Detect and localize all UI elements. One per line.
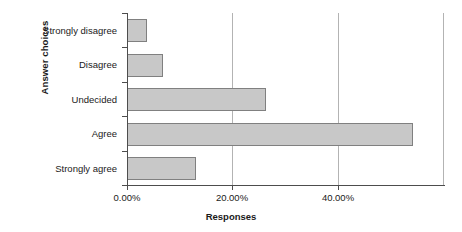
y-axis-category-labels: Strongly disagree Disagree Undecided Agr… — [14, 13, 122, 185]
plot-area — [127, 13, 444, 185]
y-axis-tick — [122, 47, 127, 48]
x-axis-tick — [127, 186, 128, 190]
y-axis-tick-label: Undecided — [13, 94, 117, 105]
bar-strongly-disagree — [127, 19, 147, 42]
bar-strongly-agree — [127, 157, 196, 180]
y-axis-line — [127, 13, 128, 186]
y-axis-tick-label: Strongly agree — [13, 163, 117, 174]
y-axis-tick — [122, 13, 127, 14]
y-axis-tick-label: Strongly disagree — [13, 25, 117, 36]
y-axis-tick — [122, 151, 127, 152]
x-axis-line — [127, 185, 445, 186]
bar-agree — [127, 123, 413, 146]
bar-disagree — [127, 54, 163, 77]
x-axis-tick-label: 40.00% — [322, 192, 354, 203]
bar-chart: Answer choices Strongly disagree Disagre… — [0, 0, 462, 232]
y-axis-tick — [122, 116, 127, 117]
gridline-right-edge — [443, 13, 444, 185]
x-axis-title: Responses — [0, 211, 462, 222]
bar-undecided — [127, 88, 266, 111]
x-axis-tick-label: 0.00% — [114, 192, 141, 203]
y-axis-tick-label: Disagree — [13, 59, 117, 70]
gridline-40 — [338, 13, 339, 185]
y-axis-tick-label: Agree — [13, 128, 117, 139]
y-axis-tick — [122, 82, 127, 83]
x-axis-tick-label: 20.00% — [216, 192, 248, 203]
x-axis-tick — [232, 186, 233, 190]
x-axis-tick — [338, 186, 339, 190]
